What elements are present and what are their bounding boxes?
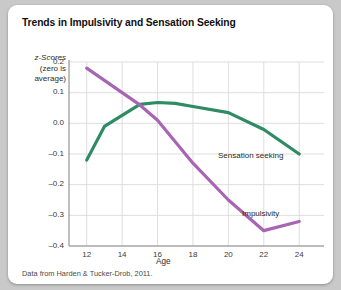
- y-tick-label: –0.1: [38, 149, 64, 158]
- x-tick-label: 18: [183, 250, 203, 259]
- chart-plot-area: z-Scores (zero is average) Age 0.20.10.0…: [8, 5, 333, 284]
- x-tick-label: 22: [254, 250, 274, 259]
- y-tick-label: 0.2: [38, 57, 64, 66]
- y-tick-label: –0.2: [38, 179, 64, 188]
- gridlines: [69, 62, 324, 246]
- y-tick-label: 0.0: [38, 118, 64, 127]
- series-label-impulsivity: Impulsivity: [242, 209, 279, 218]
- y-tick-label: –0.4: [38, 241, 64, 250]
- x-tick-label: 14: [112, 250, 132, 259]
- y-tick-label: 0.1: [38, 87, 64, 96]
- x-tick-label: 12: [77, 250, 97, 259]
- series-label-sensation-seeking: Sensation seeking: [218, 151, 283, 160]
- source-note: Data from Harden & Tucker-Drob, 2011.: [22, 269, 153, 278]
- x-tick-label: 20: [218, 250, 238, 259]
- x-tick-label: 24: [289, 250, 309, 259]
- x-tick-label: 16: [148, 250, 168, 259]
- axis-lines: [69, 60, 324, 246]
- y-tick-label: –0.3: [38, 210, 64, 219]
- figure-card: Trends in Impulsivity and Sensation Seek…: [8, 5, 333, 284]
- y-axis-title-line3: average): [34, 74, 66, 83]
